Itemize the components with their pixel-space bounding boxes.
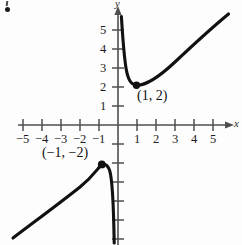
marked-point-maximum <box>98 161 106 169</box>
curve-upper-branch <box>121 14 228 85</box>
y-tick-label-5: 5 <box>100 24 106 37</box>
y-axis-label: y <box>115 0 120 9</box>
x-tick-label--2: −2 <box>73 133 86 146</box>
x-tick-label-4: 4 <box>191 133 197 146</box>
curve-lower-branch <box>13 164 114 243</box>
x-tick-label-5: 5 <box>210 133 216 146</box>
y-tick-label-3: 3 <box>100 62 106 75</box>
x-tick-label--1: −1 <box>92 133 105 146</box>
y-tick-label-2: 2 <box>100 81 106 94</box>
x-tick-label--4: −4 <box>35 133 48 146</box>
x-tick-label-3: 3 <box>172 133 178 146</box>
x-tick-label--3: −3 <box>54 133 67 146</box>
x-tick-label-1: 1 <box>134 133 140 146</box>
x-tick-label-2: 2 <box>153 133 159 146</box>
coordinate-plot <box>0 0 242 245</box>
x-axis <box>18 121 234 128</box>
y-tick-label-1: 1 <box>100 100 106 113</box>
y-tick-label-4: 4 <box>100 43 106 56</box>
graph-figure: −5 −4 −3 −2 −1 1 2 3 4 5 5 4 3 2 1 x y (… <box>0 0 242 245</box>
x-axis-label: x <box>234 117 239 129</box>
annotation-minimum-point: (1, 2) <box>137 89 167 103</box>
annotation-maximum-point: (−1, −2) <box>42 146 88 160</box>
x-tick-label--5: −5 <box>16 133 29 146</box>
